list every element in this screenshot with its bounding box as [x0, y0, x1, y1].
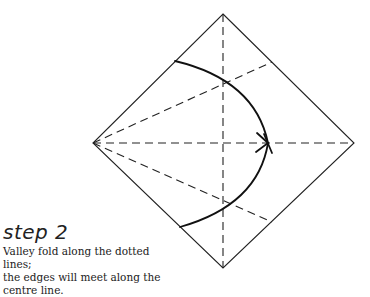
fold-lines-dashed: [93, 14, 354, 268]
lower-valley-fold-line: [93, 143, 272, 222]
instruction-line-2: the edges will meet along the: [3, 271, 178, 284]
instruction-line-3: centre line.: [3, 284, 178, 297]
upper-arc: [175, 61, 268, 143]
upper-valley-fold-line: [93, 62, 272, 143]
step-instructions: Valley fold along the dotted lines; the …: [3, 245, 178, 297]
instruction-line-1: Valley fold along the dotted lines;: [3, 245, 178, 271]
step-title: step 2: [3, 220, 68, 244]
